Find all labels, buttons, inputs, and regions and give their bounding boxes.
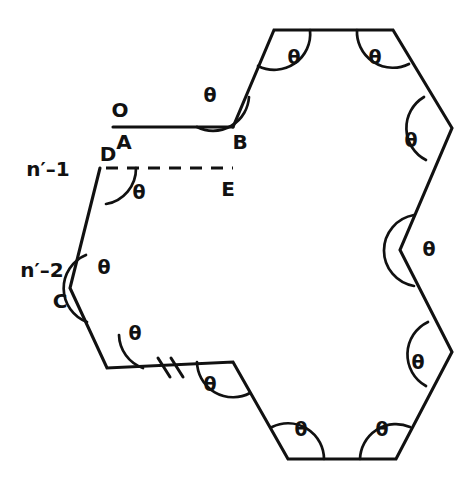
break-tick-2-icon xyxy=(171,358,183,377)
theta-label-right-middle: θ xyxy=(422,238,435,260)
vertex-label-o: O xyxy=(111,98,128,122)
theta-label-top-right: θ xyxy=(368,46,381,68)
vertex-label-c: C xyxy=(53,289,68,313)
vertex-label-a: A xyxy=(116,130,132,154)
figure-canvas: θ θ θ θ θ θ θ θ θ θ θ θ O A B D E C n′–1… xyxy=(0,0,476,485)
theta-label-lower-left: θ xyxy=(128,322,141,344)
vertex-label-e: E xyxy=(221,177,235,201)
geometry-diagram: θ θ θ θ θ θ θ θ θ θ θ θ O A B D E C n′–1… xyxy=(0,0,476,485)
theta-label-right-upper: θ xyxy=(404,129,417,151)
vertex-label-b: B xyxy=(232,130,247,154)
theta-label-bottom-left: θ xyxy=(294,418,307,440)
index-label-n-minus-1: n′–1 xyxy=(26,157,69,181)
theta-label-d: θ xyxy=(132,181,145,203)
theta-label-b: θ xyxy=(203,84,216,106)
vertex-label-d: D xyxy=(100,142,117,166)
angle-arc-top-right xyxy=(357,30,409,68)
theta-label-right-lower: θ xyxy=(411,351,424,373)
theta-label-bottom-right: θ xyxy=(375,418,388,440)
theta-label-top-left: θ xyxy=(287,46,300,68)
break-tick-1-icon xyxy=(158,358,170,377)
polygon-outline xyxy=(70,30,452,459)
theta-label-c: θ xyxy=(97,256,110,278)
index-label-n-minus-2: n′–2 xyxy=(20,258,63,282)
theta-label-lower-mid: θ xyxy=(203,373,216,395)
